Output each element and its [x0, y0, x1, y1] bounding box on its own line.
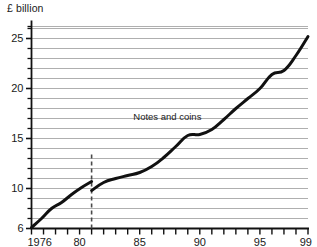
x-axis-tick-label: 1976 [28, 236, 52, 247]
y-axis-tick-label: 6 [17, 222, 23, 234]
x-axis-tick-label: 85 [134, 236, 146, 247]
series-inline-label: Notes and coins [133, 111, 201, 122]
chart-annotations-group: Notes and coins [133, 111, 201, 122]
y-axis-tick-label: 25 [11, 32, 23, 44]
chart-container: £ billion 610152025 19768085909599 Notes… [0, 0, 317, 247]
line-chart-plot: 610152025 19768085909599 Notes and coins [0, 0, 317, 247]
x-axis-tick-label: 90 [194, 236, 206, 247]
y-axis-tick-label: 20 [11, 82, 23, 94]
x-axis-tick-label: 99 [300, 236, 312, 247]
y-axis-tick-labels-group: 610152025 [11, 32, 23, 234]
x-axis-tick-label: 95 [254, 236, 266, 247]
x-axis-tick-labels-group: 19768085909599 [28, 236, 313, 247]
x-axis-tick-label: 80 [73, 236, 85, 247]
y-axis-tick-label: 10 [11, 182, 23, 194]
y-axis-tick-label: 15 [11, 132, 23, 144]
gridlines-group [32, 27, 309, 219]
